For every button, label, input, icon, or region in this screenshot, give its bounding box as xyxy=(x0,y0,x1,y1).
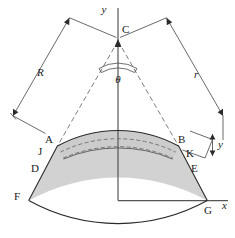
dimension-r xyxy=(120,18,223,140)
label-apex-C: C xyxy=(122,23,129,35)
label-radius-r: r xyxy=(194,68,199,80)
label-point-D: D xyxy=(31,162,39,174)
curved-beam-diagram: y C θ R r A B J K D E F G y x xyxy=(0,0,235,238)
figure-container: y C θ R r A B J K D E F G y x xyxy=(0,0,235,238)
dimension-R xyxy=(10,18,116,134)
label-axis-x: x xyxy=(221,199,227,211)
label-point-E: E xyxy=(191,162,198,174)
arc-F-G xyxy=(29,201,208,224)
label-point-B: B xyxy=(178,133,185,145)
label-axis-y: y xyxy=(101,3,107,15)
label-point-J: J xyxy=(38,145,43,157)
label-point-A: A xyxy=(45,133,53,145)
label-point-F: F xyxy=(14,190,20,202)
label-radius-R: R xyxy=(36,66,44,78)
label-point-G: G xyxy=(204,204,212,216)
label-point-K: K xyxy=(186,147,194,159)
apex-marker-C xyxy=(115,39,122,47)
label-offset-y: y xyxy=(217,138,223,150)
label-angle-theta: θ xyxy=(115,73,121,85)
